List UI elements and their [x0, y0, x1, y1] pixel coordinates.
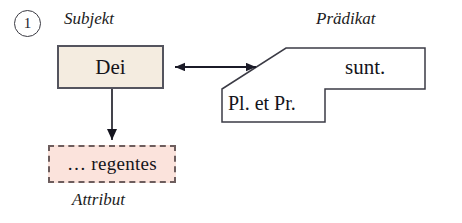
subject-node-box: Dei	[57, 45, 164, 89]
predicate-verb-text: sunt.	[345, 55, 385, 80]
diagram-canvas: 1 Subjekt Prädikat Attribut Dei sunt.	[0, 0, 462, 223]
subject-node-text: Dei	[95, 55, 125, 80]
attribute-node-text: … regentes	[67, 153, 157, 175]
predicate-features-text: Pl. et Pr.	[228, 92, 296, 115]
attribute-node-box: … regentes	[48, 145, 176, 183]
